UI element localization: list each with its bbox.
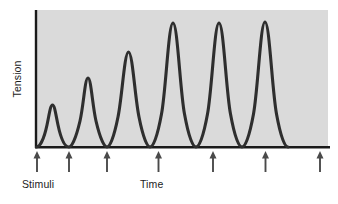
stimuli-arrow: [155, 151, 162, 172]
tension-time-figure: Tension Time Stimuli: [0, 0, 338, 204]
stimuli-arrow: [104, 151, 111, 172]
stimuli-arrow: [34, 151, 41, 172]
stimuli-arrow: [317, 151, 324, 172]
stimuli-arrow: [262, 151, 269, 172]
plot-svg: [0, 0, 338, 204]
stimuli-arrow-group: [34, 151, 324, 172]
stimuli-arrow: [66, 151, 73, 172]
stimuli-arrow: [210, 151, 217, 172]
